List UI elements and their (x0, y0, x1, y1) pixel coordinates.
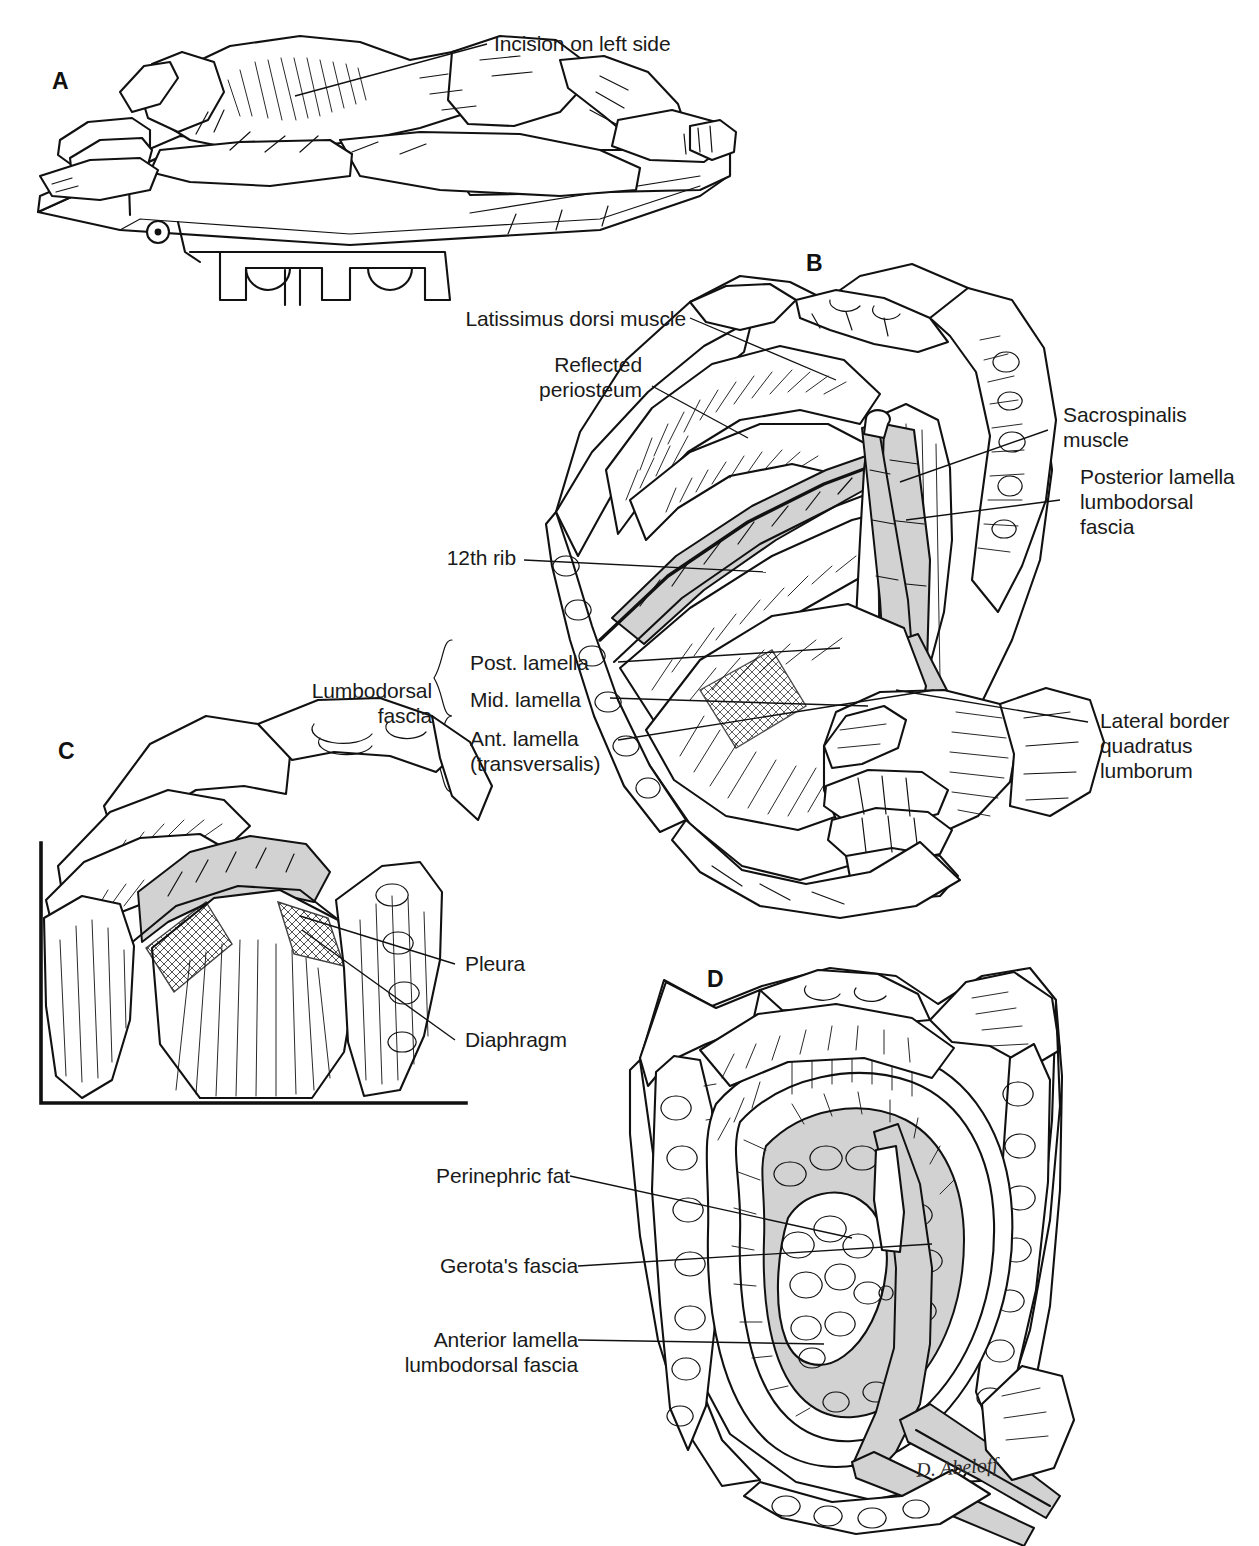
panel-letter-a: A (52, 68, 69, 95)
label-12th-rib: 12th rib (246, 545, 516, 570)
label-latissimus-dorsi-muscle: Latissimus dorsi muscle (146, 306, 686, 331)
label-lumbodorsal-fascia: Lumbodorsal fascia (170, 678, 432, 728)
label-reflected-periosteum: Reflected periosteum (246, 352, 642, 402)
label-posterior-lamella-lumbodorsal-fascia: Posterior lamella lumbodorsal fascia (1080, 464, 1235, 539)
figure-page: .ln { fill:none; stroke:#111; stroke-wid… (0, 0, 1259, 1546)
label-anterior-lamella-lumbodorsal-fascia: Anterior lamella lumbodorsal fascia (190, 1327, 578, 1377)
panel-c-artwork (41, 698, 492, 1103)
panel-letter-c: C (58, 738, 75, 765)
label-pleura: Pleura (465, 951, 525, 976)
label-perinephric-fat: Perinephric fat (230, 1163, 570, 1188)
label-diaphragm: Diaphragm (465, 1027, 567, 1052)
label-mid-lamella: Mid. lamella (470, 687, 581, 712)
figure-artwork: .ln { fill:none; stroke:#111; stroke-wid… (0, 0, 1259, 1546)
panel-letter-d: D (707, 966, 724, 993)
panel-a-artwork (38, 36, 736, 305)
panel-letter-b: B (806, 250, 823, 277)
label-lateral-border-quadratus-lumborum: Lateral border quadratus lumborum (1100, 708, 1229, 783)
label-ant-lamella-transversalis: Ant. lamella (transversalis) (470, 726, 600, 776)
label-post-lamella: Post. lamella (470, 650, 589, 675)
label-sacrospinalis-muscle: Sacrospinalis muscle (1063, 402, 1187, 452)
label-incision-on-left-side: Incision on left side (494, 31, 671, 56)
panel-d-artwork (570, 968, 1074, 1546)
label-gerotas-fascia: Gerota's fascia (230, 1253, 578, 1278)
